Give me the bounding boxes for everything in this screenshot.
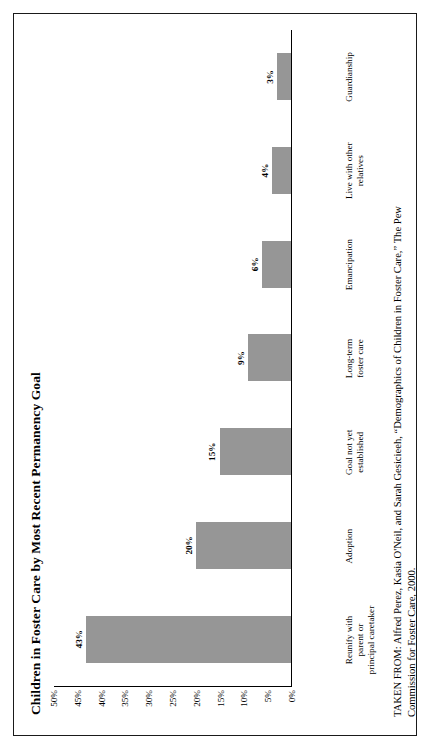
bar-value-label: 3%: [266, 70, 275, 84]
x-category-label: Adoption: [344, 499, 377, 593]
plot-wrapper: 50%45%40%35%30%25%20%15%10%5%0% 43%20%15…: [54, 30, 340, 717]
y-tick-label: 30%: [144, 690, 154, 707]
bar-value-label: 9%: [237, 351, 246, 365]
y-tick-label: 10%: [239, 690, 249, 707]
bar-rect: [277, 53, 291, 100]
bar-slot: 6%: [54, 217, 291, 311]
rotated-page: Children in Foster Care by Most Recent P…: [0, 0, 434, 744]
bar-value-label: 15%: [208, 443, 217, 461]
x-category-label-line: Goal not yet: [344, 406, 355, 498]
bar-rect: [248, 334, 291, 381]
x-category-label-line: principal caretaker: [366, 594, 377, 686]
bar-rect: [220, 428, 291, 475]
bar-slot: 4%: [54, 124, 291, 218]
x-category-label: Reunify withparent orprincipal caretaker: [344, 593, 377, 687]
x-category-label-line: established: [355, 406, 366, 498]
x-category-label-line: relatives: [355, 125, 366, 217]
y-tick-label: 20%: [192, 690, 202, 707]
bar-value-label: 4%: [261, 164, 270, 178]
figure-inner: Children in Foster Care by Most Recent P…: [14, 14, 416, 735]
x-category-label-line: Guardianship: [344, 31, 355, 123]
y-tick-label: 0%: [287, 690, 297, 702]
figure-container: Children in Foster Care by Most Recent P…: [13, 13, 417, 736]
bar-rect: [262, 241, 291, 288]
bar-value-label: 6%: [251, 257, 260, 271]
bar-slot: 20%: [54, 499, 291, 593]
x-category-label-line: Emancipation: [344, 219, 355, 311]
bar-rect: [272, 147, 291, 194]
y-tick-label: 5%: [263, 690, 273, 702]
x-category-label-line: Reunify with: [344, 594, 355, 686]
x-category-label: Emancipation: [344, 218, 377, 312]
bar-slot: 43%: [54, 592, 291, 686]
x-category-label-line: foster care: [355, 313, 366, 405]
y-tick-label: 45%: [73, 690, 83, 707]
bar-slot: 15%: [54, 405, 291, 499]
y-tick-label: 50%: [49, 690, 59, 707]
y-axis-tick-labels: 50%45%40%35%30%25%20%15%10%5%0%: [54, 687, 292, 717]
x-axis-category-labels: Reunify withparent orprincipal caretaker…: [344, 30, 377, 687]
x-category-label: Live with otherrelatives: [344, 124, 377, 218]
bar-value-label: 43%: [75, 630, 84, 648]
bar-rect: [196, 522, 291, 569]
y-tick-label: 35%: [120, 690, 130, 707]
chart-title: Children in Foster Care by Most Recent P…: [28, 30, 44, 715]
x-category-label-line: Adoption: [344, 500, 355, 592]
bar-rect: [86, 616, 291, 663]
x-category-label: Guardianship: [344, 30, 377, 124]
y-tick-label: 15%: [216, 690, 226, 707]
bar-slot: 9%: [54, 311, 291, 405]
plot-area: 43%20%15%9%6%4%3%: [54, 30, 292, 687]
source-note: TAKEN FROM: Alfred Perez, Kasia O'Neil, …: [391, 157, 419, 717]
bar-group: 43%20%15%9%6%4%3%: [54, 30, 291, 686]
x-category-label-line: Live with other: [344, 125, 355, 217]
bar-slot: 3%: [54, 30, 291, 124]
y-tick-label: 25%: [168, 690, 178, 707]
x-category-label: Goal not yetestablished: [344, 405, 377, 499]
y-tick-label: 40%: [97, 690, 107, 707]
bar-value-label: 20%: [185, 536, 194, 554]
x-category-label-line: parent or: [355, 594, 366, 686]
x-category-label: Long-termfoster care: [344, 312, 377, 406]
x-category-label-line: Long-term: [344, 313, 355, 405]
